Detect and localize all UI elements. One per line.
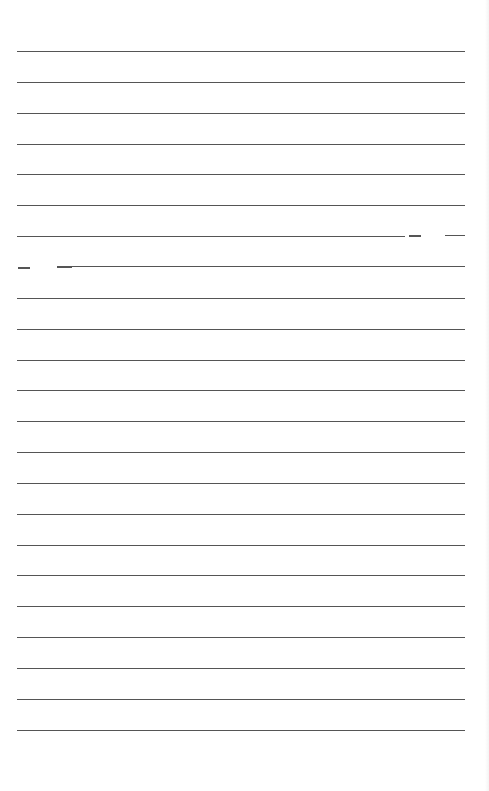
- ruled-line: [17, 668, 465, 669]
- ruled-line: [17, 390, 465, 391]
- ruled-line: [17, 360, 465, 361]
- ruled-line: [17, 606, 465, 607]
- page-edge-shadow: [485, 0, 489, 791]
- ruled-line: [17, 174, 465, 175]
- ruled-line: [17, 545, 465, 546]
- ruled-line: [17, 51, 465, 52]
- ruled-line-segment: [17, 236, 405, 237]
- ruled-line: [17, 82, 465, 83]
- ruled-line: [17, 113, 465, 114]
- ruled-line-segment: [18, 267, 30, 269]
- ruled-line: [17, 452, 465, 453]
- ruled-line-segment: [445, 235, 465, 236]
- ruled-line: [17, 144, 465, 145]
- ruled-line: [17, 514, 465, 515]
- ruled-line: [17, 699, 465, 700]
- ruled-line: [17, 298, 465, 299]
- ruled-line: [17, 637, 465, 638]
- ruled-line: [17, 483, 465, 484]
- ruled-line: [17, 575, 465, 576]
- ruled-line-segment: [57, 266, 72, 268]
- ruled-line: [17, 205, 465, 206]
- ruled-line: [17, 329, 465, 330]
- ruled-line-segment: [72, 266, 465, 267]
- ruled-line-segment: [409, 235, 421, 237]
- ruled-line: [17, 730, 465, 731]
- ruled-line: [17, 421, 465, 422]
